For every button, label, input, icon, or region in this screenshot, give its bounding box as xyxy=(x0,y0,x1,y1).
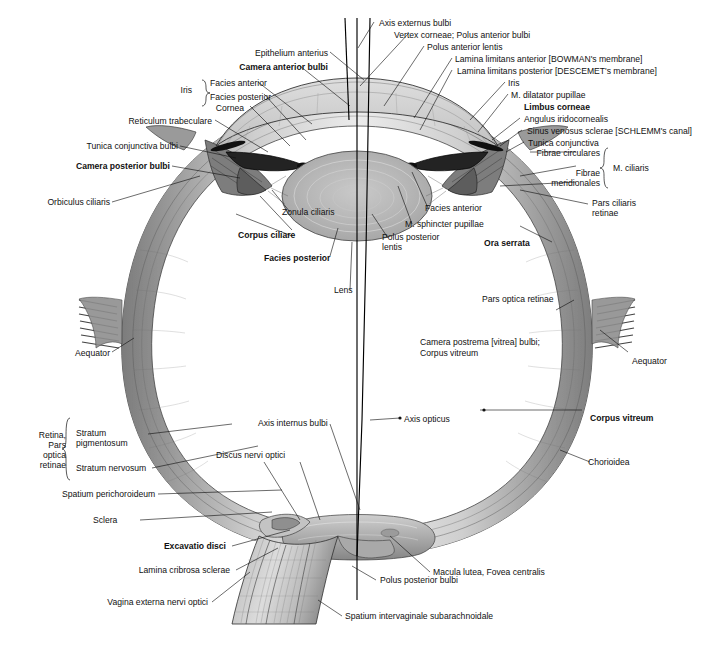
label-m-dilatator-pupillae: M. dilatator pupillae xyxy=(511,90,586,100)
eye-cross-section-illustration xyxy=(0,0,714,648)
label-zonula-ciliaris: Zonula ciliaris xyxy=(282,207,335,217)
label-lens: Lens xyxy=(334,285,353,295)
label-tunica-conjunctiva-bulbi: Tunica conjunctiva bulbi xyxy=(60,141,178,151)
label-camera-anterior-bulbi: Camera anterior bulbi xyxy=(150,62,328,72)
label-orbiculus-ciliaris: Orbiculus ciliaris xyxy=(20,197,110,207)
label-pars-optica-retinae-right: Pars optica retinae xyxy=(482,294,554,304)
label-polus-posterior-bulbi: Polus posterior bulbi xyxy=(380,575,458,585)
label-tunica-conjunctiva: Tunica conjunctiva xyxy=(528,138,599,148)
label-reticulum-trabeculare: Reticulum trabeculare xyxy=(100,116,212,126)
label-polus-posterior-lentis-line2: lentis xyxy=(382,242,402,252)
label-cornea: Cornea xyxy=(160,103,244,113)
label-angulus-iridocornealis: Angulus iridocornealis xyxy=(524,114,608,124)
label-limbus-corneae: Limbus corneae xyxy=(524,102,590,112)
label-stratum-pigmentosum-line2: pigmentosum xyxy=(76,438,128,448)
label-discus-nervi-optici: Discus nervi optici xyxy=(216,450,285,460)
label-spatium-intervaginale: Spatium intervaginale subarachnoidale xyxy=(345,611,493,621)
label-pars-ciliaris-retinae-line2: retinae xyxy=(592,208,618,218)
label-axis-internus-bulbi: Axis internus bulbi xyxy=(258,418,328,428)
label-lamina-limitans-anterior: Lamina limitans anterior [BOWMAN's membr… xyxy=(455,54,642,64)
label-corpus-ciliare: Corpus ciliare xyxy=(238,230,295,240)
label-facies-anterior-iris: Facies anterior xyxy=(210,78,267,88)
label-pars-ciliaris-retinae-line1: Pars ciliaris xyxy=(592,198,636,208)
label-lamina-limitans-posterior: Lamina limitans posterior [DESCEMET's me… xyxy=(457,66,657,76)
label-lamina-cribrosa-sclerae: Lamina cribrosa sclerae xyxy=(110,565,230,575)
label-aequator-left: Aequator xyxy=(40,348,110,358)
label-retina-line4: retinae xyxy=(22,460,66,470)
label-sinus-venosus-sclerae: Sinus venosus sclerae [SCHLEMM's canal] xyxy=(527,126,692,136)
label-vertex-corneae: Vertex corneae; Polus anterior bulbi xyxy=(394,30,530,40)
label-iris-right: Iris xyxy=(508,78,519,88)
label-epithelium-anterius: Epithelium anterius xyxy=(180,48,328,58)
label-iris-left: Iris xyxy=(150,85,192,95)
label-fibrae-meridionales-line2: meridionales xyxy=(500,178,600,188)
label-axis-externus-bulbi: Axis externus bulbi xyxy=(379,18,451,28)
label-stratum-pigmentosum-line1: Stratum xyxy=(76,428,106,438)
label-facies-anterior-lens: Facies anterior xyxy=(425,203,482,213)
label-polus-anterior-lentis: Polus anterior lentis xyxy=(427,42,502,52)
label-fibrae-circulares: Fibrae circulares xyxy=(500,148,600,158)
label-fibrae-meridionales-line1: Fibrae xyxy=(500,168,600,178)
label-chorioidea: Chorioidea xyxy=(588,457,630,467)
label-sclera: Sclera xyxy=(93,515,117,525)
label-spatium-perichoroideum: Spatium perichoroideum xyxy=(62,489,155,499)
label-vagina-externa-nervi-optici: Vagina externa nervi optici xyxy=(80,597,208,607)
label-camera-postrema-line1: Camera postrema [vitrea] bulbi; xyxy=(420,337,540,347)
label-retina-line2: Pars xyxy=(22,440,66,450)
label-camera-posterior-bulbi: Camera posterior bulbi xyxy=(30,161,170,171)
label-axis-opticus: Axis opticus xyxy=(404,414,450,424)
label-polus-posterior-lentis-line1: Polus posterior xyxy=(382,232,439,242)
eye-anatomy-figure: Axis externus bulbi Vertex corneae; Polu… xyxy=(0,0,714,648)
label-facies-posterior-iris: Facies posterior xyxy=(210,92,271,102)
label-facies-posterior-lens: Facies posterior xyxy=(264,253,330,263)
label-retina-line1: Retina, xyxy=(22,430,66,440)
label-camera-postrema-line2: Corpus vitreum xyxy=(420,348,478,358)
label-m-ciliaris: M. ciliaris xyxy=(613,163,649,173)
label-aequator-right: Aequator xyxy=(632,356,667,366)
label-corpus-vitreum: Corpus vitreum xyxy=(590,413,654,423)
label-retina-line3: optica xyxy=(22,450,66,460)
label-m-sphincter-pupillae: M. sphincter pupillae xyxy=(405,219,484,229)
label-ora-serrata: Ora serrata xyxy=(484,238,530,248)
label-stratum-nervosum: Stratum nervosum xyxy=(76,463,146,473)
label-excavatio-disci: Excavatio disci xyxy=(110,541,226,551)
